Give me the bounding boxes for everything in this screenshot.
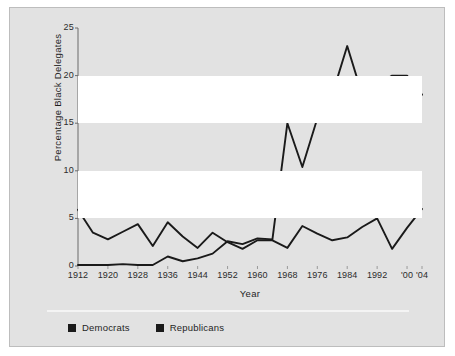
x-axis-title: Year	[78, 288, 422, 299]
y-tick-label: 0	[69, 260, 74, 270]
y-tick-label: 5	[69, 212, 74, 222]
legend-divider	[47, 310, 409, 312]
grid-band	[78, 76, 422, 124]
y-tick-label: 10	[64, 165, 74, 175]
x-tick-label: 1952	[217, 270, 237, 280]
x-tick-label: 1920	[98, 270, 118, 280]
x-tick-label: 1912	[68, 270, 88, 280]
x-tick-label: '04	[416, 270, 428, 280]
y-tick-label: 15	[64, 117, 74, 127]
x-tick-label: 1960	[247, 270, 267, 280]
chart-figure: Percentage Black Delegates 0510152025 19…	[0, 0, 455, 356]
x-tick-label: 1992	[367, 270, 387, 280]
x-tick-label: '00	[401, 270, 413, 280]
x-tick-label: 1936	[158, 270, 178, 280]
legend-item-republicans: Republicans	[156, 322, 224, 333]
plot-area	[78, 28, 422, 266]
chart-legend: Democrats Republicans	[68, 322, 224, 333]
x-axis-tick-labels: 1912192019281936194419521960196819761984…	[78, 270, 422, 284]
legend-label-republicans: Republicans	[170, 322, 224, 333]
y-axis-tick-labels: 0510152025	[50, 28, 74, 266]
legend-label-democrats: Democrats	[82, 322, 130, 333]
x-tick-label: 1976	[307, 270, 327, 280]
x-tick-label: 1968	[277, 270, 297, 280]
y-tick-label: 20	[64, 70, 74, 80]
x-tick-label: 1984	[337, 270, 357, 280]
x-tick-label: 1928	[128, 270, 148, 280]
data-series-lines	[78, 28, 422, 266]
legend-swatch-republicans	[156, 324, 164, 332]
legend-item-democrats: Democrats	[68, 322, 130, 333]
grid-band	[78, 171, 422, 219]
legend-swatch-democrats	[68, 324, 76, 332]
y-tick-label: 25	[64, 22, 74, 32]
x-tick-label: 1944	[187, 270, 207, 280]
